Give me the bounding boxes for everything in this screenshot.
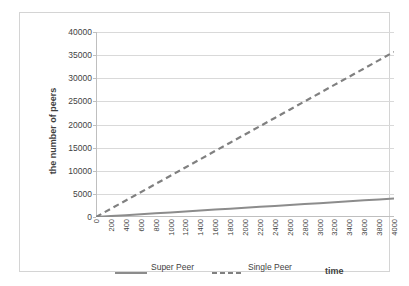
- x-axis-tick-labels: 0200400600800100012001400160018002000220…: [96, 219, 394, 259]
- x-tick-label: 3000: [315, 219, 325, 259]
- x-tick-label: 800: [151, 219, 161, 259]
- x-tick-label: 1600: [210, 219, 220, 259]
- chart-legend: Super Peer Single Peer: [115, 262, 292, 272]
- x-tick-label: 2400: [270, 219, 280, 259]
- y-tick-label: 20000: [68, 120, 92, 130]
- y-tick-label: 30000: [68, 73, 92, 83]
- series-line-super-peer: [96, 199, 394, 218]
- x-tick-label: 1000: [166, 219, 176, 259]
- x-tick-label: 200: [106, 219, 116, 259]
- legend-item-super-peer[interactable]: Super Peer: [115, 262, 194, 272]
- x-tick-label: 2600: [285, 219, 295, 259]
- y-tick-mark: [93, 217, 96, 218]
- legend-swatch-dashed-line-icon: [212, 263, 244, 271]
- chart-frame: the number of peers 05000100001500020000…: [19, 12, 390, 272]
- y-axis-tick-labels: 0500010000150002000025000300003500040000: [58, 32, 92, 217]
- x-tick-label: 2200: [255, 219, 265, 259]
- x-tick-label: 2800: [300, 219, 310, 259]
- y-tick-label: 40000: [68, 27, 92, 37]
- x-tick-label: 0: [91, 219, 101, 259]
- plot-area: [96, 32, 394, 217]
- y-tick-label: 15000: [68, 143, 92, 153]
- legend-label-super-peer: Super Peer: [151, 262, 194, 272]
- x-tick-label: 1200: [180, 219, 190, 259]
- x-tick-label: 400: [121, 219, 131, 259]
- legend-item-single-peer[interactable]: Single Peer: [212, 262, 292, 272]
- y-tick-label: 5000: [73, 189, 92, 199]
- legend-swatch-solid-line-icon: [115, 263, 147, 271]
- series-line-single-peer: [96, 52, 394, 217]
- series-lines: [96, 32, 394, 217]
- x-tick-label: 3600: [359, 219, 369, 259]
- y-tick-label: 35000: [68, 50, 92, 60]
- x-tick-label: 2000: [240, 219, 250, 259]
- y-axis-title-label: the number of peers: [48, 88, 58, 175]
- y-tick-label: 25000: [68, 96, 92, 106]
- y-tick-label: 10000: [68, 166, 92, 176]
- x-axis-title: time: [325, 266, 344, 276]
- x-tick-label: 3200: [329, 219, 339, 259]
- legend-label-single-peer: Single Peer: [248, 262, 292, 272]
- x-tick-label: 1800: [225, 219, 235, 259]
- x-tick-label: 4000: [389, 219, 399, 259]
- x-tick-label: 1400: [195, 219, 205, 259]
- x-tick-label: 600: [136, 219, 146, 259]
- x-tick-label: 3400: [344, 219, 354, 259]
- x-tick-label: 3800: [374, 219, 384, 259]
